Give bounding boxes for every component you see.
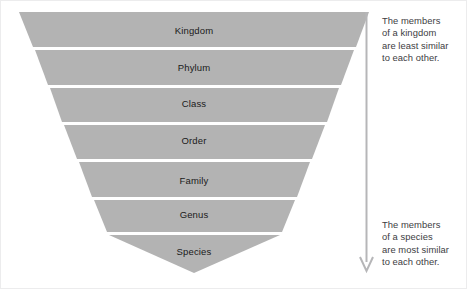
funnel-band-genus — [94, 200, 295, 232]
funnel-band-phylum — [35, 50, 354, 85]
funnel-band-species — [109, 235, 280, 273]
note-kingdom-similarity: The members of a kingdom are least simil… — [382, 15, 449, 64]
note-species-similarity: The members of a species are most simila… — [382, 219, 449, 268]
funnel-band-kingdom — [19, 12, 369, 47]
similarity-arrow-icon — [353, 7, 381, 279]
diagram-canvas: Kingdom Phylum Class Order Family Genus … — [0, 0, 467, 289]
funnel-band-order — [64, 125, 325, 159]
funnel-band-class — [50, 88, 339, 122]
funnel-band-family — [79, 162, 310, 197]
